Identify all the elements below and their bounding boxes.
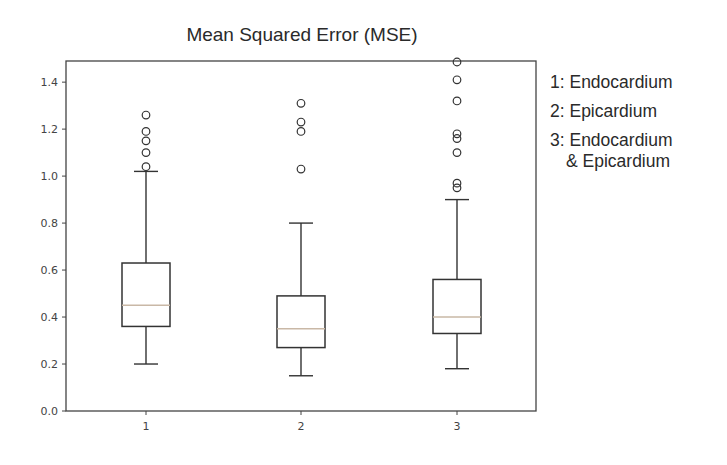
y-tick-label: 1.2 <box>41 123 59 136</box>
legend-item-3: 3: Endocardium& Epicardium <box>550 130 673 172</box>
outlier-marker <box>453 58 461 66</box>
y-tick-label: 0.8 <box>41 217 59 230</box>
boxplot-figure: Mean Squared Error (MSE) 0.00.20.40.60.8… <box>0 0 727 465</box>
outlier-marker <box>453 97 461 105</box>
legend: 1: Endocardium 2: Epicardium 3: Endocard… <box>550 72 673 180</box>
legend-label-2: 2: Epicardium <box>550 101 657 121</box>
legend-label-3-cont: & Epicardium <box>550 151 673 172</box>
outlier-marker <box>142 128 150 136</box>
box-3 <box>433 279 481 333</box>
y-tick-label: 0.4 <box>41 311 59 324</box>
outlier-marker <box>297 165 305 173</box>
outlier-marker <box>297 99 305 107</box>
outlier-marker <box>453 179 461 187</box>
outlier-marker <box>297 128 305 136</box>
legend-item-2: 2: Epicardium <box>550 101 673 122</box>
y-tick-label: 1.4 <box>41 76 59 89</box>
plot-area: 0.00.20.40.60.81.01.21.4123 <box>0 0 727 465</box>
outlier-marker <box>453 149 461 157</box>
y-tick-label: 0.2 <box>41 358 59 371</box>
outlier-marker <box>142 149 150 157</box>
x-tick-label: 1 <box>143 420 150 433</box>
x-tick-label: 2 <box>298 420 305 433</box>
outlier-marker <box>142 163 150 171</box>
outlier-marker <box>142 111 150 119</box>
outlier-marker <box>453 76 461 84</box>
legend-label-3: 3: Endocardium <box>550 130 673 150</box>
x-tick-label: 3 <box>454 420 461 433</box>
y-tick-label: 0.0 <box>41 405 59 418</box>
outlier-marker <box>297 118 305 126</box>
y-tick-label: 1.0 <box>41 170 59 183</box>
box-2 <box>277 296 325 348</box>
legend-label-1: 1: Endocardium <box>550 72 673 92</box>
outlier-marker <box>142 137 150 145</box>
y-tick-label: 0.6 <box>41 264 59 277</box>
box-1 <box>122 263 170 326</box>
outlier-marker <box>453 130 461 138</box>
legend-item-1: 1: Endocardium <box>550 72 673 93</box>
